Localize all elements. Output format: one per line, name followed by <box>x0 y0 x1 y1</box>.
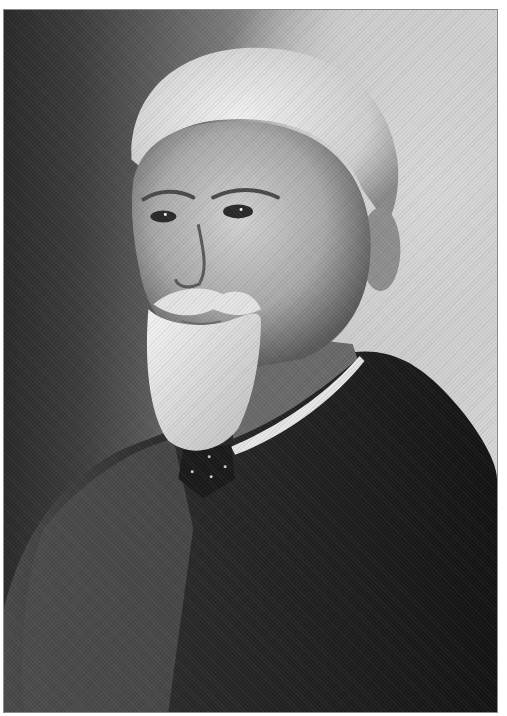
portrait-photo <box>3 9 498 713</box>
portrait-illustration <box>4 10 497 712</box>
eye-left <box>150 210 176 222</box>
eye-right <box>223 204 253 218</box>
jacket-lapel-left <box>22 439 193 712</box>
